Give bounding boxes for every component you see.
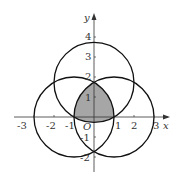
y-tick-3: 3 <box>85 51 91 62</box>
x-axis-label: x <box>163 120 169 131</box>
x-tick-3: 3 <box>153 120 159 131</box>
x-tick-2: 2 <box>131 120 137 131</box>
x-axis-arrow-icon <box>163 115 170 120</box>
y-tick-2: 2 <box>85 71 91 82</box>
y-axis-arrow-icon <box>92 13 97 20</box>
x-tick-neg3: -3 <box>17 120 27 131</box>
coordinate-diagram: -3 -2 -1 1 2 3 x y 4 3 2 1 -1 -2 O <box>0 0 180 181</box>
y-tick-neg1: -1 <box>80 132 90 143</box>
x-tick-1: 1 <box>115 120 121 131</box>
y-tick-1: 1 <box>85 92 91 103</box>
x-tick-neg2: -2 <box>46 120 56 131</box>
y-tick-neg2: -2 <box>80 152 90 163</box>
origin-label: O <box>83 121 91 132</box>
y-axis-label: y <box>83 12 90 23</box>
y-tick-4: 4 <box>85 31 91 42</box>
x-tick-neg1: -1 <box>65 120 75 131</box>
